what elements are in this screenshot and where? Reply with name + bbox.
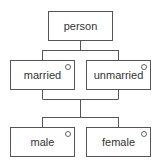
node-label: male [31, 136, 55, 148]
node-label: unmarried [94, 69, 144, 81]
node-male[interactable]: male [10, 127, 75, 157]
circle-icon [65, 64, 71, 70]
circle-icon [141, 131, 147, 137]
circle-icon [141, 64, 147, 70]
node-female[interactable]: female [86, 127, 151, 157]
node-married[interactable]: married [10, 60, 75, 90]
node-label: married [24, 69, 61, 81]
node-unmarried[interactable]: unmarried [86, 60, 151, 90]
node-label: female [102, 136, 135, 148]
circle-icon [65, 131, 71, 137]
node-label: person [64, 20, 98, 32]
node-person[interactable]: person [48, 11, 113, 41]
